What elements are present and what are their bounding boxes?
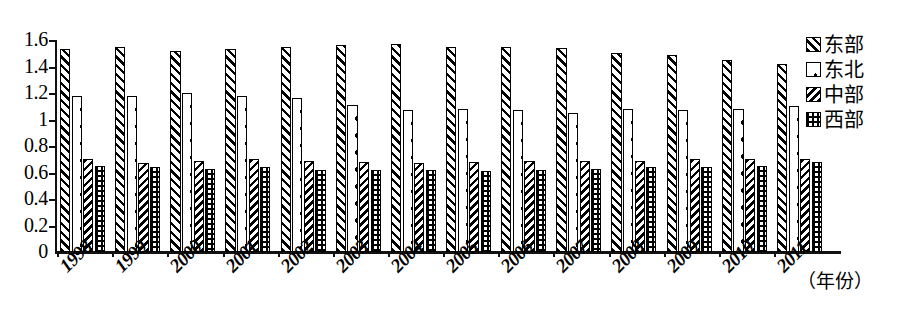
bar-东北 (678, 110, 688, 252)
x-axis-tick-mark (223, 252, 225, 257)
bar-group (276, 40, 331, 252)
chart-legend: 东部 东北 中部 西部 (806, 33, 899, 133)
y-axis-tick-label: 1.6 (2, 29, 48, 49)
bar-group (496, 40, 551, 252)
bar-西部 (646, 167, 656, 252)
bar-group (717, 40, 772, 252)
y-axis-tick-mark (49, 146, 56, 148)
y-axis-tick-label: 1.2 (2, 82, 48, 102)
bar-东部 (446, 47, 456, 252)
bar-中部 (304, 161, 314, 252)
legend-label-northeast: 东北 (824, 60, 864, 80)
bar-西部 (95, 166, 105, 252)
bar-东部 (667, 55, 677, 252)
x-axis-tick-mark (553, 252, 555, 257)
bar-西部 (150, 167, 160, 252)
bar-东北 (237, 96, 247, 252)
legend-swatch-east-icon (806, 37, 821, 52)
bar-group (386, 40, 441, 252)
bar-group (165, 40, 220, 252)
bar-group (55, 40, 110, 252)
y-axis-tick-mark (49, 93, 56, 95)
bar-东北 (733, 109, 743, 252)
bar-group (606, 40, 661, 252)
legend-swatch-central-icon (806, 87, 821, 102)
y-axis-tick-mark (49, 120, 56, 122)
bar-东北 (182, 93, 192, 252)
bar-中部 (745, 159, 755, 252)
y-axis-tick-labels: 00.20.40.60.811.21.41.6 (0, 0, 48, 331)
x-axis-tick-mark (333, 252, 335, 257)
bar-东部 (225, 49, 235, 252)
x-axis-tick-mark (443, 252, 445, 257)
bar-中部 (194, 161, 204, 252)
bar-西部 (757, 166, 767, 252)
legend-item-east[interactable]: 东部 (806, 33, 899, 56)
y-axis-tick-label: 1.4 (2, 56, 48, 76)
bar-东部 (170, 51, 180, 252)
bar-东北 (568, 113, 578, 252)
bar-西部 (315, 170, 325, 252)
bar-中部 (690, 159, 700, 252)
bar-中部 (469, 162, 479, 252)
x-axis-tick-mark (57, 252, 59, 257)
x-axis-tick-mark (388, 252, 390, 257)
x-axis-tick-mark (664, 252, 666, 257)
y-axis-tick-label: 0.8 (2, 135, 48, 155)
y-axis-tick-label: 1 (2, 109, 48, 129)
bar-西部 (481, 171, 491, 252)
y-axis-tick-mark (49, 40, 56, 42)
bar-chart: 00.20.40.60.811.21.41.6 1998199920002001… (0, 0, 899, 331)
x-axis-title: （年份） (797, 272, 873, 291)
x-axis-tick-mark (609, 252, 611, 257)
bar-东北 (347, 105, 357, 252)
bar-group (331, 40, 386, 252)
bar-group (551, 40, 606, 252)
bar-西部 (426, 170, 436, 252)
bar-东北 (789, 106, 799, 252)
bar-西部 (591, 169, 601, 252)
x-axis-tick-mark (167, 252, 169, 257)
bar-西部 (260, 167, 270, 252)
y-axis-tick-mark (49, 67, 56, 69)
legend-label-central: 中部 (824, 85, 864, 105)
y-axis-tick-label: 0.4 (2, 188, 48, 208)
y-axis-tick-mark (49, 199, 56, 201)
y-axis-tick-label: 0 (2, 241, 48, 261)
x-axis-tick-mark (112, 252, 114, 257)
bar-西部 (371, 170, 381, 252)
bar-中部 (635, 161, 645, 252)
legend-item-west[interactable]: 西部 (806, 108, 899, 131)
bar-东北 (72, 96, 82, 252)
y-axis-tick-mark (49, 226, 56, 228)
bar-group (220, 40, 275, 252)
bar-东部 (611, 53, 621, 252)
legend-item-northeast[interactable]: 东北 (806, 58, 899, 81)
legend-label-west: 西部 (824, 110, 864, 130)
bar-东部 (556, 48, 566, 252)
bar-group (441, 40, 496, 252)
bar-东北 (127, 96, 137, 252)
y-axis-tick-label: 0.6 (2, 162, 48, 182)
bar-中部 (83, 159, 93, 252)
bar-东部 (60, 49, 70, 252)
bar-中部 (138, 163, 148, 252)
bar-中部 (580, 161, 590, 252)
legend-label-east: 东部 (824, 35, 864, 55)
bar-东部 (777, 64, 787, 252)
bar-东部 (115, 47, 125, 252)
bar-东北 (513, 110, 523, 252)
bar-东部 (336, 45, 346, 252)
x-axis-tick-mark (498, 252, 500, 257)
bar-中部 (359, 162, 369, 252)
bar-group (110, 40, 165, 252)
bar-西部 (536, 170, 546, 252)
bar-西部 (812, 162, 822, 252)
legend-item-central[interactable]: 中部 (806, 83, 899, 106)
bar-西部 (701, 167, 711, 252)
x-axis-tick-mark (719, 252, 721, 257)
bar-中部 (414, 163, 424, 252)
plot-area (55, 40, 827, 252)
bar-东部 (391, 44, 401, 252)
bar-西部 (205, 169, 215, 252)
